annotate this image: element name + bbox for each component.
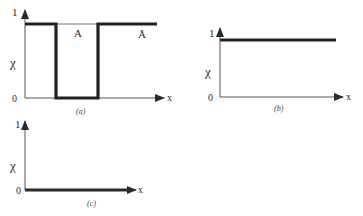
caption-b: (b)	[274, 104, 284, 113]
y-top-label: 1	[15, 118, 21, 130]
origin-label: 0	[16, 185, 21, 196]
y-mid-label: χ	[204, 64, 211, 79]
caption-c: (c)	[87, 199, 96, 208]
y-mid-label: χ	[9, 55, 16, 70]
y-top-label: 1	[209, 27, 215, 39]
complement-label: Ā	[138, 28, 146, 40]
y-top-label: 1	[12, 6, 18, 18]
panel-b: 1 χ 0 x (b)	[204, 27, 351, 113]
origin-label: 0	[208, 92, 213, 103]
y-mid-label: χ	[9, 158, 16, 173]
x-axis-label: x	[138, 184, 143, 195]
x-axis-label: x	[167, 92, 172, 103]
origin-label: 0	[12, 93, 17, 104]
set-a-label: A	[74, 27, 82, 39]
panel-a: 1 χ 0 x A Ā (a)	[9, 6, 172, 116]
panel-c: 1 χ 0 x (c)	[9, 118, 143, 208]
figure-canvas: 1 χ 0 x A Ā (a) 1 χ 0 x (b) 1 χ 0 x (c)	[0, 0, 363, 216]
x-axis-label: x	[346, 91, 351, 102]
caption-a: (a)	[76, 107, 86, 116]
